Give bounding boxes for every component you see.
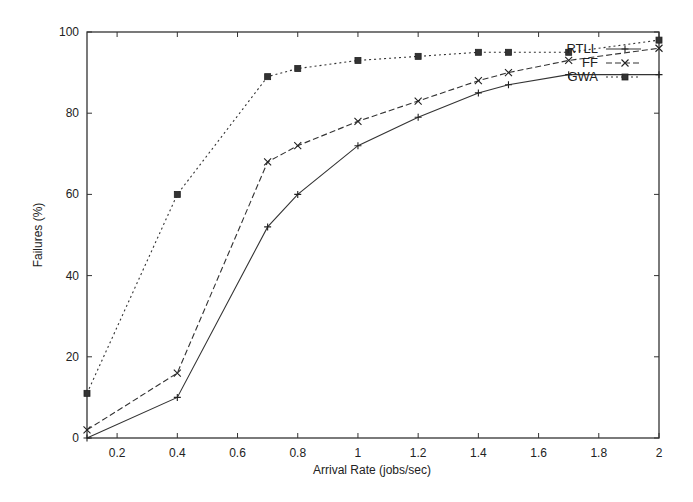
series-line: [87, 40, 659, 393]
plus-marker-icon: [415, 114, 422, 121]
x-tick-label: 0.6: [229, 446, 246, 460]
legend-item-rtll: RTLL: [566, 41, 641, 56]
square-marker-icon: [622, 74, 628, 80]
x-tick-label: 0.8: [289, 446, 306, 460]
y-tick-label: 80: [66, 106, 80, 120]
plus-marker-icon: [174, 394, 181, 401]
line-chart: 0.20.40.60.811.21.41.61.82020406080100 R…: [0, 0, 693, 502]
y-tick-label: 100: [59, 25, 79, 39]
cross-marker-icon: [174, 370, 181, 377]
series-ff: [84, 45, 663, 434]
cross-marker-icon: [415, 98, 422, 105]
x-tick-label: 2: [656, 446, 663, 460]
square-marker-icon: [475, 49, 481, 55]
series-gwa: [84, 37, 662, 396]
legend-item-gwa: GWA: [567, 69, 641, 84]
plus-marker-icon: [475, 89, 482, 96]
series-line: [87, 75, 659, 438]
plot-border: [87, 32, 659, 438]
legend-item-ff: FF: [582, 55, 641, 70]
square-marker-icon: [656, 37, 662, 43]
cross-marker-icon: [294, 142, 301, 149]
y-tick-label: 60: [66, 187, 80, 201]
square-marker-icon: [355, 57, 361, 63]
square-marker-icon: [174, 191, 180, 197]
y-tick-label: 0: [72, 431, 79, 445]
axis-ticks: 0.20.40.60.811.21.41.61.82020406080100: [59, 25, 663, 460]
x-tick-label: 0.2: [109, 446, 126, 460]
series-rtll: [84, 71, 663, 441]
cross-marker-icon: [354, 118, 361, 125]
y-tick-label: 20: [66, 350, 80, 364]
y-axis-title: Failures (%): [31, 203, 45, 268]
y-tick-label: 40: [66, 269, 80, 283]
plus-marker-icon: [505, 81, 512, 88]
x-tick-label: 1.2: [410, 446, 427, 460]
x-tick-label: 1.6: [530, 446, 547, 460]
legend-label: RTLL: [566, 41, 598, 56]
series-layer: [84, 37, 663, 441]
square-marker-icon: [505, 49, 511, 55]
cross-marker-icon: [475, 77, 482, 84]
square-marker-icon: [415, 53, 421, 59]
legend-label: FF: [582, 55, 598, 70]
x-axis-title: Arrival Rate (jobs/sec): [313, 463, 431, 477]
x-tick-label: 0.4: [169, 446, 186, 460]
plus-marker-icon: [84, 435, 91, 442]
x-tick-label: 1.8: [590, 446, 607, 460]
series-line: [87, 48, 659, 430]
plus-marker-icon: [656, 71, 663, 78]
square-marker-icon: [295, 66, 301, 72]
x-tick-label: 1: [355, 446, 362, 460]
plot-frame: [87, 32, 659, 438]
x-tick-label: 1.4: [470, 446, 487, 460]
legend-label: GWA: [567, 69, 598, 84]
square-marker-icon: [84, 390, 90, 396]
cross-marker-icon: [264, 158, 271, 165]
plus-marker-icon: [622, 46, 629, 53]
square-marker-icon: [265, 74, 271, 80]
